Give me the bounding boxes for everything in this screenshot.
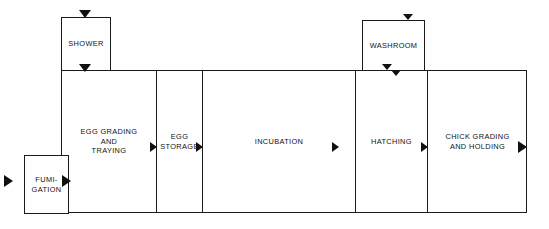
arrow-egg-grading-to-egg-storage-icon (150, 142, 157, 152)
hatchery-flow-diagram: EGG GRADING AND TRAYING EGG STORAGE INCU… (0, 0, 549, 229)
stage-hatching-label: HATCHING (371, 137, 412, 147)
arrow-chick-grading-exit-icon (518, 141, 527, 153)
room-fumigation-label: FUMI- GATION (32, 175, 62, 194)
arrow-hatching-to-chick-grading-icon (421, 142, 428, 152)
arrow-entry-to-fumigation-icon (4, 175, 13, 187)
arrow-shower-to-floor-icon (79, 64, 91, 72)
stage-egg-grading-and-traying-label: EGG GRADING AND TRAYING (81, 127, 138, 156)
stage-egg-storage-label: EGG STORAGE (160, 132, 198, 151)
arrow-washroom-exit-b-icon (391, 70, 401, 76)
room-shower[interactable]: SHOWER (61, 17, 111, 71)
room-shower-label: SHOWER (68, 39, 103, 49)
room-washroom[interactable]: WASHROOM (362, 20, 425, 71)
stage-incubation-label: INCUBATION (255, 137, 304, 147)
stage-chick-grading-and-holding-label: CHICK GRADING AND HOLDING (445, 132, 509, 151)
stage-egg-grading-and-traying[interactable]: EGG GRADING AND TRAYING (62, 70, 156, 213)
room-washroom-label: WASHROOM (370, 41, 418, 51)
stage-chick-grading-and-holding[interactable]: CHICK GRADING AND HOLDING (428, 70, 527, 213)
arrow-egg-storage-to-incubation-icon (196, 142, 203, 152)
stage-hatching[interactable]: HATCHING (356, 70, 427, 213)
arrow-fumigation-to-egg-grading-icon (62, 175, 71, 187)
arrow-incubation-to-hatching-icon (332, 142, 339, 152)
arrow-shower-entry-icon (79, 10, 91, 18)
arrow-washroom-entry-icon (403, 14, 413, 20)
